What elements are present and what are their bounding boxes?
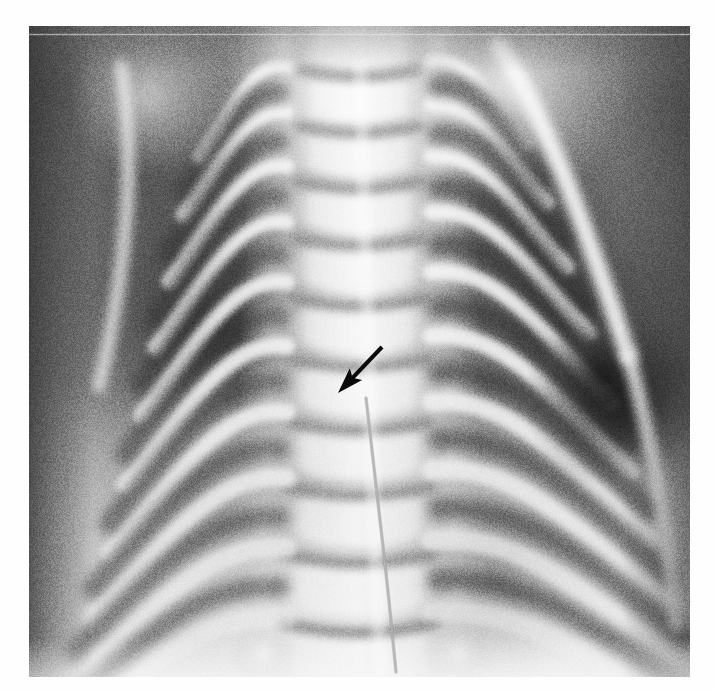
chest-xray-image: Chest radiograph showing thoracic spine …	[29, 26, 690, 677]
xray-canvas	[29, 26, 690, 677]
radiograph-page: Chest radiograph showing thoracic spine …	[0, 0, 715, 691]
